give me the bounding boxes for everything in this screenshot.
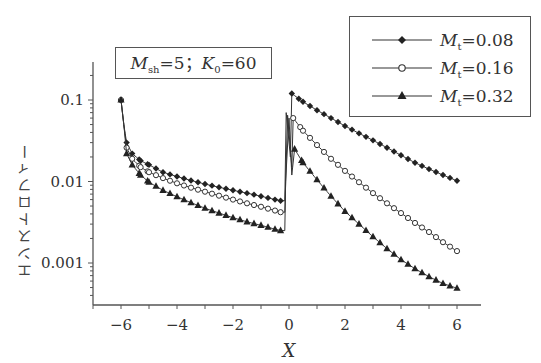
y-tick-label: 0.001 [41,254,84,272]
x-tick-label: 4 [396,316,406,334]
series-mt-0-32 [117,96,460,291]
annotation-var2: K [202,53,215,73]
annotation-sep: ； [185,53,202,73]
x-axis-title: X [281,340,297,361]
filled-triangle-marker-icon [372,86,432,106]
filled-diamond-marker-icon [372,30,432,50]
legend-item-mt-008: Mt=0.08 [350,27,530,53]
legend: Mt=0.08 Mt=0.16 Mt=0.32 [349,16,531,117]
x-tick-label: 6 [452,316,462,334]
x-tick-label: −2 [222,316,244,334]
x-tick-label: −6 [110,316,132,334]
y-axis-title: エンストロフィー [14,130,38,290]
annotation-val1: =5 [159,53,184,73]
legend-item-mt-032: Mt=0.32 [350,83,530,109]
x-tick-label: 2 [340,316,350,334]
open-circle-marker-icon [372,58,432,78]
x-tick-label: −4 [166,316,188,334]
parameter-annotation: Msh=5；K0=60 [115,47,272,79]
series-layer [117,90,460,291]
legend-label: Mt=0.32 [440,83,514,116]
legend-item-mt-016: Mt=0.16 [350,55,530,81]
annotation-sub1: sh [148,64,160,75]
y-tick-label: 0.1 [60,91,84,109]
annotation-val2: =60 [221,53,257,73]
y-tick-label: 0.01 [51,173,84,191]
annotation-var1: M [130,53,147,73]
x-tick-label: 0 [284,316,294,334]
